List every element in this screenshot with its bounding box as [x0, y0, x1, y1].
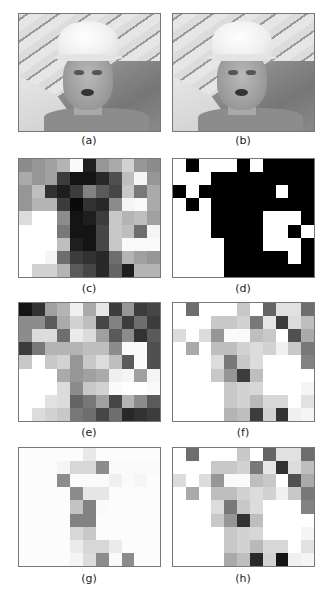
grid-cell — [186, 527, 199, 540]
grid-cell — [19, 329, 32, 342]
grid-cell — [32, 329, 45, 342]
grid-cell — [96, 225, 109, 238]
panel-d-grid — [172, 158, 315, 278]
grid-cell — [263, 553, 276, 566]
grid-cell — [224, 540, 237, 553]
grid-cell — [276, 329, 289, 342]
grid-cell — [57, 514, 70, 527]
grid-cell — [45, 382, 58, 395]
grid-cell — [134, 172, 147, 185]
grid-cell — [45, 211, 58, 224]
grid-cell — [83, 251, 96, 264]
grid-cell — [83, 238, 96, 251]
grid-cell — [199, 369, 212, 382]
grid-cell — [134, 474, 147, 487]
grid-cell — [83, 329, 96, 342]
grid-cell — [173, 461, 186, 474]
grid-cell — [186, 369, 199, 382]
grid-cell — [276, 461, 289, 474]
grid-cell — [109, 395, 122, 408]
grid-cell — [83, 500, 96, 513]
grid-cell — [70, 408, 83, 421]
grid-cell — [122, 238, 135, 251]
grid-cell — [45, 172, 58, 185]
grid-cell — [186, 474, 199, 487]
grid-cell — [57, 540, 70, 553]
grid-cell — [122, 395, 135, 408]
grid-cell — [211, 553, 224, 566]
grid-cell — [199, 395, 212, 408]
grid-cell — [224, 225, 237, 238]
grid-cell — [288, 540, 301, 553]
grid-cell — [147, 461, 160, 474]
grid-cell — [122, 474, 135, 487]
grid-cell — [96, 448, 109, 461]
grid-cell — [263, 303, 276, 316]
grid-cell — [109, 382, 122, 395]
grid-cell — [250, 172, 263, 185]
grid-cell — [57, 251, 70, 264]
grid-cell — [199, 329, 212, 342]
grid-cell — [288, 198, 301, 211]
grid-cell — [276, 540, 289, 553]
grid-cell — [70, 264, 83, 277]
grid-cell — [109, 185, 122, 198]
grid-cell — [19, 408, 32, 421]
grid-cell — [32, 355, 45, 368]
grid-cell — [19, 461, 32, 474]
grid-cell — [288, 408, 301, 421]
grid-cell — [122, 225, 135, 238]
grid-cell — [211, 448, 224, 461]
grid-cell — [122, 461, 135, 474]
grid-cell — [19, 342, 32, 355]
grid-cell — [224, 251, 237, 264]
grid-cell — [122, 553, 135, 566]
grid-cell — [224, 395, 237, 408]
grid-cell — [122, 487, 135, 500]
grid-cell — [109, 198, 122, 211]
grid-cell — [173, 342, 186, 355]
grid-cell — [57, 408, 70, 421]
grid-cell — [173, 211, 186, 224]
grid-cell — [147, 159, 160, 172]
grid-cell — [173, 172, 186, 185]
grid-cell — [19, 395, 32, 408]
grid-cell — [250, 159, 263, 172]
grid-cell — [57, 316, 70, 329]
grid-cell — [122, 408, 135, 421]
grid-cell — [250, 448, 263, 461]
grid-cell — [173, 540, 186, 553]
grid-cell — [301, 303, 314, 316]
panel-c-grid — [18, 158, 161, 278]
grid-cell — [122, 355, 135, 368]
grid-cell — [224, 159, 237, 172]
grid-cell — [301, 342, 314, 355]
panel-f-label: (f) — [173, 426, 313, 439]
grid-cell — [96, 251, 109, 264]
grid-cell — [199, 461, 212, 474]
grid-cell — [96, 185, 109, 198]
grid-cell — [122, 264, 135, 277]
grid-cell — [134, 408, 147, 421]
grid-cell — [109, 238, 122, 251]
grid-cell — [263, 198, 276, 211]
grid-cell — [32, 225, 45, 238]
grid-cell — [109, 553, 122, 566]
grid-cell — [199, 474, 212, 487]
grid-cell — [122, 514, 135, 527]
grid-cell — [57, 329, 70, 342]
grid-cell — [19, 198, 32, 211]
grid-cell — [276, 553, 289, 566]
grid-cell — [186, 303, 199, 316]
grid-cell — [109, 329, 122, 342]
grid-cell — [147, 264, 160, 277]
grid-cell — [19, 487, 32, 500]
grid-cell — [147, 487, 160, 500]
grid-cell — [96, 316, 109, 329]
grid-cell — [147, 185, 160, 198]
grid-cell — [250, 461, 263, 474]
grid-cell — [70, 225, 83, 238]
grid-cell — [250, 500, 263, 513]
grid-cell — [19, 251, 32, 264]
grid-cell — [45, 355, 58, 368]
